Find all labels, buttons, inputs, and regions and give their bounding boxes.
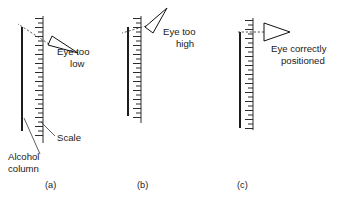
caption-a-line1: Eye too bbox=[57, 46, 90, 57]
caption-b-line1: Eye too bbox=[163, 26, 196, 37]
panel-label-c: (c) bbox=[237, 180, 248, 190]
caption-a-line2: low bbox=[70, 58, 84, 69]
thermometer-parallax-diagram: Eye too low Scale Alcohol column (a) bbox=[0, 0, 337, 201]
panel-c: Eye correctly positioned (c) bbox=[237, 18, 327, 190]
panel-label-a: (a) bbox=[45, 180, 56, 190]
alcohol-column-label-line2: column bbox=[8, 163, 39, 174]
alcohol-column-label-line1: Alcohol bbox=[8, 151, 39, 162]
panel-b: Eye too high (b) bbox=[122, 8, 196, 190]
caption-c-line2: positioned bbox=[281, 55, 325, 66]
caption-c-line1: Eye correctly bbox=[271, 43, 327, 54]
scale-ticks-a bbox=[35, 19, 43, 136]
caption-b-line2: high bbox=[176, 38, 194, 49]
scale-ticks-b bbox=[133, 19, 141, 118]
panel-a: Eye too low Scale Alcohol column (a) bbox=[8, 16, 90, 190]
scale-label-a: Scale bbox=[57, 132, 81, 143]
scale-ticks-c bbox=[245, 21, 253, 129]
panel-label-b: (b) bbox=[137, 180, 148, 190]
eye-triangle-c bbox=[264, 23, 290, 41]
